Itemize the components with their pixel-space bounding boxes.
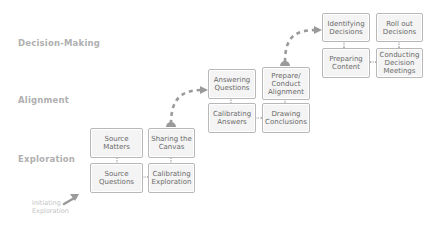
box-roll-out-decisions-label: Roll out Decisions [379,20,420,36]
box-source-matters-label: Source Matters [93,135,140,151]
box-sharing-the-canvas-label: Sharing the Canvas [151,135,192,151]
box-preparing-content[interactable]: Preparing Content [322,48,370,78]
start-label-initiating-exploration: Initiating Exploration [32,200,69,215]
box-prepare-conduct-alignment-label: Prepare/ Conduct Alignment [265,72,307,96]
box-drawing-conclusions[interactable]: Drawing Conclusions [262,103,310,133]
box-source-matters[interactable]: Source Matters [90,128,143,158]
box-sharing-the-canvas[interactable]: Sharing the Canvas [148,128,195,158]
box-prepare-conduct-alignment[interactable]: Prepare/ Conduct Alignment [262,67,310,100]
box-calibrating-answers-label: Calibrating Answers [211,110,253,126]
box-identifying-decisions[interactable]: Identifying Decisions [322,13,370,42]
box-preparing-content-label: Preparing Content [325,55,367,71]
transition-arrow-exploration-to-alignment-icon [166,86,208,127]
stage-label-alignment: Alignment [18,95,69,105]
box-answering-questions[interactable]: Answering Questions [208,69,256,99]
box-calibrating-exploration[interactable]: Calibrating Exploration [148,163,195,193]
box-source-questions-label: Source Questions [93,170,140,186]
box-roll-out-decisions[interactable]: Roll out Decisions [376,13,423,42]
box-drawing-conclusions-label: Drawing Conclusions [265,110,307,126]
box-calibrating-exploration-label: Calibrating Exploration [151,170,192,186]
stage-label-exploration: Exploration [18,154,75,164]
box-calibrating-answers[interactable]: Calibrating Answers [208,103,256,133]
box-answering-questions-label: Answering Questions [211,76,253,92]
box-conducting-decision-meetings-label: Conducting Decision Meetings [379,51,420,75]
transition-arrow-alignment-to-decision-icon [280,26,322,66]
box-source-questions[interactable]: Source Questions [90,163,143,193]
box-conducting-decision-meetings[interactable]: Conducting Decision Meetings [376,48,423,78]
box-identifying-decisions-label: Identifying Decisions [325,20,367,36]
stage-label-decision-making: Decision-Making [18,38,100,48]
